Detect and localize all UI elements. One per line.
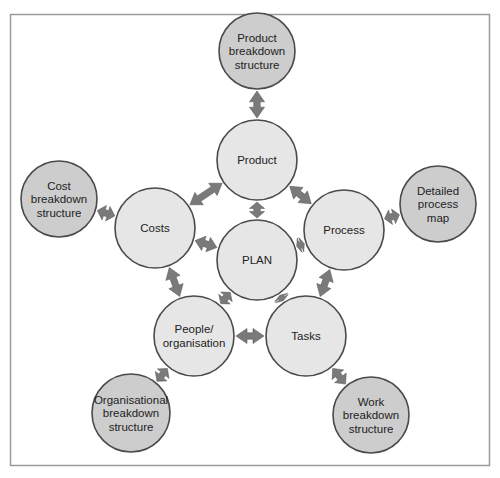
node-obs: Organisationalbreakdownstructure	[92, 374, 170, 452]
node-pbs: Productbreakdownstructure	[219, 13, 295, 89]
arrow-product-plan	[250, 202, 265, 218]
arrow-product-process	[290, 186, 312, 203]
node-label: structure	[37, 207, 82, 219]
node-layer: PLANProductCostsProcessPeople/organisati…	[21, 13, 476, 453]
arrow-process-plan	[297, 238, 305, 253]
node-label: breakdown	[343, 409, 399, 421]
node-tasks: Tasks	[266, 296, 346, 376]
arrow-process-dpm	[385, 209, 400, 224]
node-label: Detailed	[417, 185, 459, 197]
node-label: Cost	[47, 180, 71, 192]
node-cbs: Costbreakdownstructure	[21, 161, 97, 237]
node-label: structure	[109, 421, 154, 433]
node-product: Product	[217, 120, 297, 200]
node-process: Process	[304, 190, 384, 270]
arrow-process-tasks	[317, 270, 333, 297]
node-label: Product	[237, 32, 277, 44]
node-label: People/	[174, 323, 214, 335]
plan-relationship-diagram: PLANProductCostsProcessPeople/organisati…	[0, 0, 500, 478]
node-dpm: Detailedprocessmap	[400, 166, 476, 242]
arrow-people-obs	[155, 369, 169, 382]
node-label: organisation	[163, 337, 226, 349]
node-label: Costs	[140, 222, 170, 234]
arrow-cbs-costs	[97, 206, 115, 221]
node-label: breakdown	[31, 193, 87, 205]
node-plan: PLAN	[217, 220, 297, 300]
node-label: Organisational	[94, 394, 168, 406]
node-label: process	[418, 198, 459, 210]
node-wbs: Workbreakdownstructure	[333, 377, 409, 453]
node-label: map	[427, 212, 449, 224]
arrow-costs-plan	[195, 236, 217, 252]
arrow-product-costs	[190, 183, 222, 205]
node-label: breakdown	[229, 45, 285, 57]
node-label: structure	[349, 423, 394, 435]
node-label: Product	[237, 154, 277, 166]
arrow-costs-people	[166, 268, 183, 297]
node-label: Tasks	[291, 330, 321, 342]
node-label: breakdown	[103, 407, 159, 419]
node-label: PLAN	[242, 254, 272, 266]
node-label: Work	[358, 396, 385, 408]
node-label: Process	[323, 224, 365, 236]
node-people: People/organisation	[154, 296, 234, 376]
arrow-people-tasks	[236, 329, 264, 344]
node-label: structure	[235, 59, 280, 71]
arrow-pbs-product	[250, 91, 265, 118]
arrow-plan-people	[219, 292, 232, 304]
node-costs: Costs	[115, 188, 195, 268]
arrow-tasks-wbs	[332, 368, 346, 384]
